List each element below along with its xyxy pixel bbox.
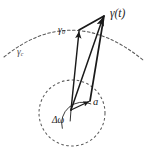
label-gamma-0-subscript: 0 <box>62 28 65 35</box>
base-circle <box>39 80 105 146</box>
delta-omega-angle-arc <box>62 102 92 129</box>
parallelogram-side-right <box>90 16 104 101</box>
label-gamma-c-subscript: c <box>21 51 24 57</box>
diagram-svg <box>0 0 147 151</box>
label-gamma-0: γ0 <box>58 25 65 36</box>
label-gamma-c: γc <box>17 48 23 58</box>
gamma-c-curve <box>4 30 143 60</box>
label-gamma-t: γ(t) <box>110 8 125 20</box>
label-a: a <box>93 97 98 108</box>
label-delta-omega: Δω <box>52 116 64 126</box>
parallelogram-side-top-left <box>79 16 104 30</box>
angle-reference-tick <box>70 110 71 121</box>
figure-canvas: γ(t) γ0 γc a Δω <box>0 0 147 151</box>
